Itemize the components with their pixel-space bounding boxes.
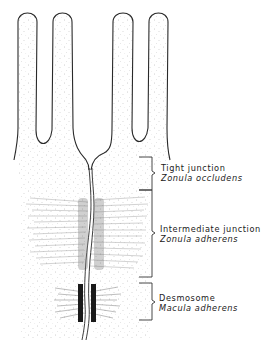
label-desmosome: Desmosome Macula adherens	[159, 293, 238, 313]
label-tight-junction-name: Tight junction	[161, 163, 243, 173]
right-cell	[91, 13, 170, 340]
junctional-complex-diagram: Tight junction Zonula occludens Intermed…	[0, 0, 275, 351]
label-intermediate-junction-name: Intermediate junction	[160, 224, 261, 234]
label-desmosome-name: Desmosome	[159, 293, 238, 303]
label-tight-junction-latin: Zonula occludens	[161, 173, 243, 183]
desmosome-plaque	[78, 284, 96, 322]
label-tight-junction: Tight junction Zonula occludens	[161, 163, 243, 183]
label-desmosome-latin: Macula adherens	[159, 303, 238, 313]
label-intermediate-junction: Intermediate junction Zonula adherens	[160, 224, 261, 244]
label-intermediate-junction-latin: Zonula adherens	[160, 234, 261, 244]
